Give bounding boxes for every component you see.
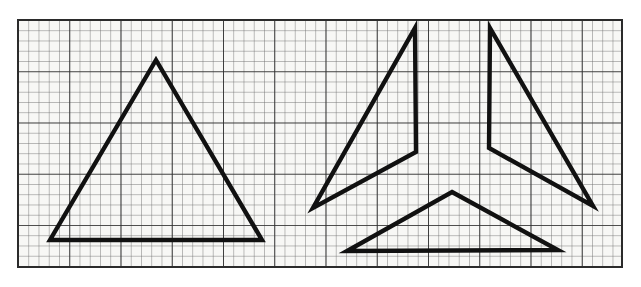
figure-container bbox=[0, 0, 641, 287]
graph-paper-figure bbox=[0, 0, 641, 287]
